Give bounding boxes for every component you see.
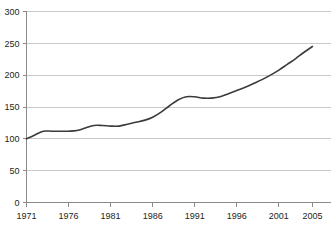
x-tick-label: 1991: [185, 211, 205, 221]
x-tick-label: 1971: [16, 211, 36, 221]
y-tick-label: 0: [14, 198, 19, 208]
line-chart: 050100150200250300 197119761981198619911…: [0, 0, 332, 225]
chart-canvas: 050100150200250300 197119761981198619911…: [0, 0, 332, 225]
x-tick-label: 1981: [101, 211, 121, 221]
chart-background: [0, 0, 332, 225]
x-tick-label: 1976: [59, 211, 79, 221]
x-tick-label: 1986: [143, 211, 163, 221]
x-tick-label: 2001: [269, 211, 289, 221]
y-tick-label: 50: [9, 166, 19, 176]
y-tick-label: 300: [4, 7, 19, 17]
y-tick-label: 100: [4, 134, 19, 144]
y-tick-label: 250: [4, 39, 19, 49]
x-tick-label: 2005: [302, 211, 322, 221]
x-tick-label: 1996: [227, 211, 247, 221]
y-tick-label: 200: [4, 70, 19, 80]
y-tick-label: 150: [4, 102, 19, 112]
